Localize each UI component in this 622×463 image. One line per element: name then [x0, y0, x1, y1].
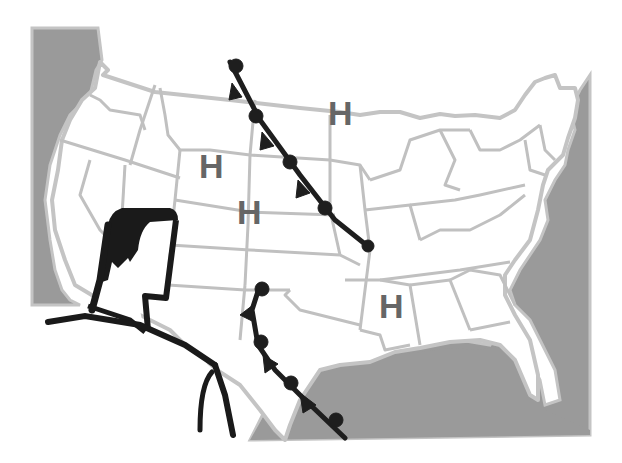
high-pressure-label: H: [199, 147, 224, 185]
high-pressure-label: H: [328, 94, 353, 132]
high-pressure-label: H: [237, 193, 262, 231]
high-pressure-label: H: [379, 287, 404, 325]
weather-map-illustration: H H H H: [0, 0, 622, 463]
